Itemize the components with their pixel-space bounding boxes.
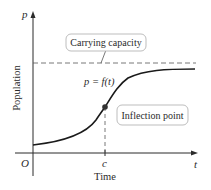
- carrying-capacity-label: Carrying capacity: [70, 37, 141, 48]
- y-axis: [31, 11, 36, 176]
- origin-label: O: [21, 157, 29, 169]
- curve-label: p = f(t): [83, 76, 115, 88]
- c-tick-label: c: [102, 157, 107, 169]
- t-axis-label: t: [194, 158, 198, 170]
- carrying-capacity-leader: [101, 50, 106, 63]
- logistic-growth-diagram: p t O c Time Population p = f(t) Carryin…: [0, 0, 211, 190]
- inflection-point-label: Inflection point: [122, 110, 184, 121]
- y-axis-arrow-icon: [31, 11, 36, 18]
- p-axis-label: p: [21, 8, 28, 20]
- x-axis: [15, 151, 198, 156]
- inflection-point-marker: [102, 104, 108, 110]
- x-axis-arrow-icon: [191, 151, 198, 156]
- x-axis-title: Time: [94, 171, 116, 182]
- y-axis-title: Population: [11, 65, 22, 111]
